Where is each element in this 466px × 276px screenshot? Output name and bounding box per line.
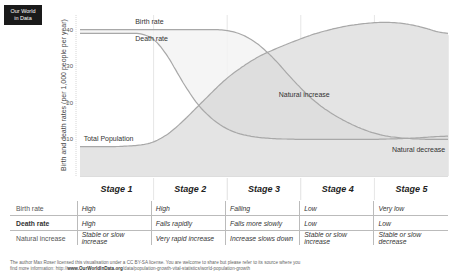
table-row-birth-rate: Birth rate High High Falling Low Very lo… — [10, 201, 448, 216]
table-row-death-rate: Death rate High Falls rapidly Falls more… — [10, 216, 448, 231]
y-tick-label: 30 — [66, 63, 73, 69]
y-tick-label: 20 — [66, 100, 73, 106]
table-cell: Falls rapidly — [151, 216, 225, 231]
table-cell: Stable or slow increase — [300, 231, 374, 246]
y-tick-label: 40 — [66, 27, 73, 33]
footer-text: /data/population-growth-vital-statistics… — [123, 266, 250, 271]
annotation-death-rate: Death rate — [135, 35, 168, 42]
row-label: Death rate — [10, 216, 77, 231]
stage-header-row: Stage 1 Stage 2 Stage 3 Stage 4 Stage 5 — [80, 178, 448, 200]
table-cell: Falling — [226, 201, 300, 216]
annotation-natural-increase: Natural increase — [279, 91, 330, 98]
table-cell: Very low — [374, 201, 448, 216]
demographic-transition-chart: 10203040 Birth rateDeath rateTotal Popul… — [0, 0, 466, 200]
license-footer: The author Max Roser licensed this visua… — [10, 260, 460, 272]
table-cell: Low — [300, 216, 374, 231]
stage-label: Stage 4 — [300, 178, 374, 200]
stage-label: Stage 2 — [153, 178, 227, 200]
table-cell: High — [77, 216, 151, 231]
footer-text: find more information: http:// — [10, 266, 67, 271]
table-cell: Falls more slowly — [226, 216, 300, 231]
table-cell: Very rapid increase — [151, 231, 225, 246]
table-cell: High — [151, 201, 225, 216]
annotation-birth-rate: Birth rate — [135, 18, 164, 25]
table-cell: Low — [374, 216, 448, 231]
stage-label: Stage 1 — [80, 178, 153, 200]
table-cell: High — [77, 201, 151, 216]
table-row-natural-increase: Natural increase Stable or slow increase… — [10, 231, 448, 246]
source-link[interactable]: www.OurWorldInData.org — [67, 266, 123, 271]
stage-description-table: Birth rate High High Falling Low Very lo… — [10, 201, 448, 245]
footer-text: The author Max Roser licensed this visua… — [10, 260, 300, 265]
y-axis: 10203040 — [66, 15, 76, 176]
table-cell: Stable or slow increase — [77, 231, 151, 246]
annotation-natural-decrease: Natural decrease — [392, 146, 445, 153]
table-cell: Low — [300, 201, 374, 216]
stage-label: Stage 5 — [374, 178, 448, 200]
table-cell: Stable or slow decrease — [374, 231, 448, 246]
row-label: Natural increase — [10, 231, 77, 246]
annotation-total-population: Total Population — [84, 135, 134, 143]
y-tick-label: 10 — [66, 136, 73, 142]
row-label: Birth rate — [10, 201, 77, 216]
table-cell: Increase slows down — [226, 231, 300, 246]
stage-label: Stage 3 — [227, 178, 301, 200]
